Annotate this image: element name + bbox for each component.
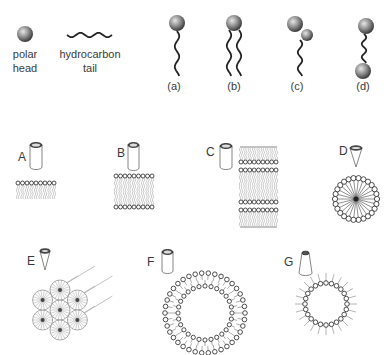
lipid-head-icon	[234, 286, 239, 291]
lipid-head-icon	[171, 286, 176, 291]
lipid-head-icon	[239, 160, 243, 164]
lipid-head-icon	[324, 323, 329, 328]
lipid-head-icon	[176, 281, 181, 286]
lipid-head-icon	[224, 328, 228, 332]
lipid-head-icon	[137, 205, 141, 209]
lipid-head-icon	[334, 284, 339, 289]
lipid-head-icon	[165, 324, 170, 329]
lipid-head-icon	[123, 205, 127, 209]
lipid-head-icon	[227, 299, 231, 303]
lipid-head-icon	[270, 208, 274, 212]
lipid-head-icon	[257, 200, 261, 204]
panel-label: F	[147, 255, 154, 269]
hydrocarbon-tail-label-line1: hydrocarbon	[59, 48, 120, 60]
lipid-head-icon	[241, 324, 246, 329]
lipid-head-icon	[241, 298, 246, 303]
lipid-head-icon	[150, 174, 154, 178]
polar-head-icon	[226, 15, 242, 31]
lipid-head-icon	[230, 340, 235, 345]
lipid-head-icon	[230, 281, 235, 286]
panel-c: C	[206, 144, 278, 228]
lipid-head-icon	[257, 160, 261, 164]
structure-bilayer	[114, 174, 154, 209]
lipid-head-icon	[243, 208, 247, 212]
lipid-head-icon	[220, 290, 224, 294]
lipid-head-icon	[163, 311, 168, 316]
molecule-type-b: (b)	[226, 15, 242, 92]
lipid-head-icon	[199, 271, 204, 276]
lipid-head-icon	[274, 208, 278, 212]
hydrocarbon-tail-icon	[175, 31, 179, 76]
hydrocarbon-tail-icon	[237, 30, 241, 76]
lipid-head-icon	[114, 174, 118, 178]
lipid-head-icon	[239, 208, 243, 212]
lipid-head-icon	[224, 294, 228, 298]
lipid-head-icon	[191, 287, 195, 291]
cylinder-top-inner-icon	[32, 144, 40, 147]
lipid-head-icon	[248, 168, 252, 172]
lipid-head-icon	[332, 196, 337, 201]
lipid-head-icon	[119, 174, 123, 178]
lipid-head-icon	[339, 317, 344, 322]
lipid-head-icon	[303, 302, 308, 307]
lipid-head-icon	[252, 200, 256, 204]
lipid-head-icon	[274, 168, 278, 172]
lipid-head-icon	[137, 174, 141, 178]
lipid-head-icon	[356, 176, 361, 181]
lipid-head-icon	[209, 337, 213, 341]
lipid-head-icon	[206, 351, 211, 355]
lipid-head-icon	[238, 330, 243, 335]
aggregate-panels: ABCDEFG	[16, 143, 380, 355]
structure-hexagonal-cylindrical-micelles	[33, 266, 113, 340]
lipid-head-icon	[248, 160, 252, 164]
lipid-head-icon	[238, 292, 243, 297]
cylinder-shape-icon	[162, 250, 173, 274]
polar-head-icon	[358, 18, 374, 34]
lipid-head-icon	[229, 305, 233, 309]
lipid-head-icon	[213, 349, 218, 354]
cylinder-body-icon	[128, 145, 139, 171]
hydrocarbon-tail-label-line2: tail	[83, 62, 97, 74]
molecule-types: (a)(b)(c)(d)	[167, 15, 374, 92]
hydrocarbon-tail-icon	[362, 34, 366, 63]
lipid-head-icon	[150, 205, 154, 209]
lipid-head-icon	[132, 205, 136, 209]
molecule-type-c: (c)	[287, 16, 313, 92]
lipid-head-icon	[48, 181, 52, 185]
lipid-head-icon	[141, 205, 145, 209]
hydrocarbon-tail-icon	[67, 33, 112, 37]
lipid-head-icon	[206, 271, 211, 276]
lipid-head-icon	[215, 335, 219, 339]
structure-inverted-micelle	[295, 273, 357, 335]
lipid-head-icon	[168, 330, 173, 335]
lipid-head-icon	[191, 335, 195, 339]
lipid-head-icon	[356, 217, 361, 222]
molecule-label: (c)	[291, 80, 304, 92]
cone-shape-icon	[40, 249, 50, 270]
lipid-head-icon	[242, 304, 247, 309]
legend: polar head hydrocarbon tail	[13, 26, 121, 74]
lipid-head-icon	[324, 281, 329, 286]
panel-label: C	[206, 145, 215, 159]
structure-vesicle-liposome-	[163, 271, 248, 355]
lipid-head-icon	[193, 272, 198, 277]
lipid-head-icon	[213, 272, 218, 277]
lipid-head-icon	[248, 200, 252, 204]
structure-spherical-micelle	[332, 176, 379, 223]
truncated-cone-body-icon	[299, 253, 312, 276]
panel-e: E	[27, 249, 112, 340]
truncated-cone-top-icon	[302, 251, 309, 255]
lipid-head-icon	[351, 176, 356, 181]
lipid-head-icon	[193, 349, 198, 354]
panel-label: G	[284, 255, 293, 269]
lipid-head-icon	[329, 322, 334, 327]
lipid-head-icon	[141, 174, 145, 178]
lipid-head-icon	[344, 307, 349, 312]
lipid-head-icon	[177, 305, 181, 309]
lipid-head-icon	[243, 311, 248, 316]
panel-f: F	[147, 250, 247, 355]
cylinder-body-icon	[162, 252, 173, 274]
lipid-head-icon	[25, 181, 29, 185]
lipid-head-icon	[242, 317, 247, 322]
lipid-head-icon	[309, 317, 314, 322]
